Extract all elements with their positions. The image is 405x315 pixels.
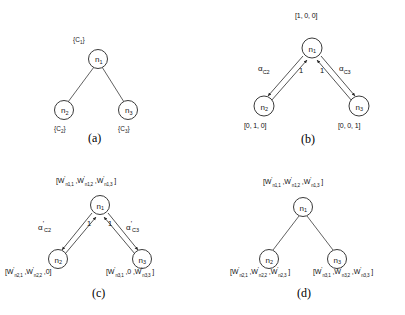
figure-container: {C1} n1 n2 n3 {C2} {C3} (a) [1, 0, 0]	[0, 0, 405, 315]
node-n2-vector: [W'n2,1 ,W'n2,2 ,W'n2,3 ]	[230, 266, 290, 278]
panel-c: [W'n1,1 ,W'n1,2 ,W'n1,3 ] n1	[0, 158, 203, 315]
panel-d-caption: (d)	[297, 286, 311, 301]
node-n1: n1	[302, 38, 322, 58]
node-n3-vector: [W'n3,1 ,0 ,W'n3,3 ]	[106, 266, 154, 278]
node-n1: n1	[91, 196, 110, 215]
edge-weight-right: 1	[108, 219, 112, 228]
edge-n1-n2	[273, 216, 299, 250]
node-n3-set-label: {C3}	[118, 125, 130, 134]
node-n2-vector: [W'n2,1 ,W'n2,2 ,0]	[5, 266, 51, 278]
node-n2-vector: [0, 1, 0]	[244, 122, 266, 129]
panel-b: [1, 0, 0] n1 n2	[203, 0, 405, 158]
edge-weight-left: 1	[299, 66, 303, 75]
arrow-n1-to-n3	[321, 56, 355, 96]
node-n2-set-label: {C2}	[54, 125, 66, 134]
node-n3: n3	[119, 101, 138, 120]
edge-pair-n1-n2	[268, 56, 307, 101]
edge-pair-n1-n3	[317, 56, 355, 101]
node-n2: n2	[49, 250, 68, 269]
node-n2: n2	[55, 101, 74, 120]
edge-label-alpha-c3: αC3	[339, 64, 351, 75]
edge-label-alpha-c2: αC2	[258, 64, 270, 75]
panel-a-caption: (a)	[88, 131, 101, 146]
node-n3-vector: [0, 0, 1]	[338, 122, 360, 129]
edge-weight-left: 1	[87, 219, 91, 228]
node-n2: n2	[254, 96, 274, 116]
panel-d: [W'n1,1 ,W'n1,2 ,W'n1,3 ] n1 n2 n3 [W'n2…	[203, 158, 405, 315]
edge-label-alpha-c2-prime: α'C2	[38, 220, 51, 233]
panel-a: {C1} n1 n2 n3 {C2} {C3} (a)	[0, 0, 203, 158]
node-n1: n1	[294, 198, 313, 217]
node-n3-vector: [W'n3,1 ,W'n3,2 ,W'n3,3 ]	[313, 266, 373, 278]
arrow-n2-to-n1	[65, 217, 96, 254]
edge-n1-n3	[307, 216, 333, 250]
edge-weight-right: 1	[320, 66, 324, 75]
edge-n1-n2	[68, 67, 94, 102]
panel-a-graph: n1 n2 n3	[0, 0, 203, 158]
edge-n1-n3	[102, 67, 124, 102]
node-n1: n1	[89, 50, 108, 69]
edge-label-alpha-c3-prime: α'C3	[126, 220, 139, 233]
panel-c-caption: (c)	[92, 286, 105, 301]
node-n3: n3	[349, 96, 369, 116]
panel-b-caption: (b)	[301, 132, 315, 147]
arrow-n1-to-n2	[268, 56, 303, 96]
